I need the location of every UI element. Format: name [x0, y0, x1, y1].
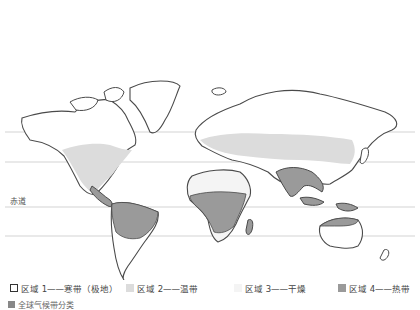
baffin-island: [104, 88, 124, 102]
legend-item-zone1: 区域 1——寒带（极地）: [10, 282, 118, 294]
swatch-zone1-icon: [10, 284, 18, 292]
legend-label-zone2: 区域 2——温带: [137, 282, 198, 294]
africa-tropical: [190, 192, 246, 233]
map-legend: 区域 1——寒带（极地） 区域 2——温带 区域 3——干燥 区域 4——热带: [0, 280, 420, 296]
australia-tropical: [320, 218, 358, 226]
new-guinea: [336, 203, 358, 211]
world-climate-map: 赤道: [0, 0, 420, 280]
equator-label: 赤道: [10, 195, 26, 206]
legend-item-zone3: 区域 3——干燥: [234, 282, 306, 294]
greenland: [130, 81, 180, 133]
legend-label-zone4: 区域 4——热带: [349, 282, 410, 294]
figure-caption: 全球气候带分类: [8, 299, 74, 310]
iceland: [212, 88, 226, 95]
southeast-asia-islands: [300, 197, 324, 205]
world-map-svg: [0, 0, 420, 280]
swatch-zone3-icon: [234, 284, 242, 292]
madagascar: [246, 219, 253, 234]
legend-item-zone4: 区域 4——热带: [338, 282, 410, 294]
swatch-zone4-icon: [338, 284, 346, 292]
legend-label-zone3: 区域 3——干燥: [245, 282, 306, 294]
legend-label-zone1: 区域 1——寒带（极地）: [21, 282, 118, 294]
caption-text: 全球气候带分类: [18, 299, 74, 310]
new-zealand: [380, 249, 389, 260]
caption-square-icon: [8, 301, 15, 308]
legend-item-zone2: 区域 2——温带: [126, 282, 198, 294]
swatch-zone2-icon: [126, 284, 134, 292]
